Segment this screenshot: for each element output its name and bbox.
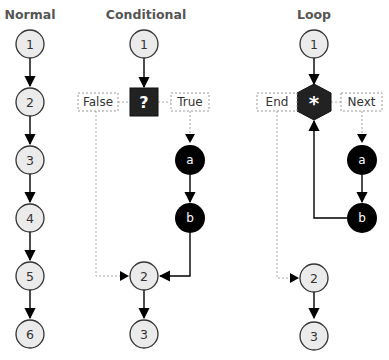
svg-text:a: a xyxy=(186,153,193,167)
loop-hexagon: * xyxy=(297,84,331,120)
svg-text:4: 4 xyxy=(26,211,34,226)
svg-text:1: 1 xyxy=(140,37,148,52)
svg-text:5: 5 xyxy=(26,269,34,284)
flow-diagram: Normal Conditional Loop 1 2 3 4 5 6 1 ? xyxy=(0,0,389,360)
svg-text:b: b xyxy=(186,211,194,225)
conditional-node-b: b xyxy=(175,203,205,233)
svg-text:True: True xyxy=(176,95,203,109)
question-icon: ? xyxy=(139,93,148,112)
normal-node-1: 1 xyxy=(16,30,44,58)
svg-text:False: False xyxy=(83,95,113,109)
svg-text:b: b xyxy=(358,211,366,225)
normal-node-4: 4 xyxy=(16,204,44,232)
asterisk-icon: * xyxy=(309,91,320,115)
svg-text:2: 2 xyxy=(26,95,34,110)
svg-text:6: 6 xyxy=(26,327,34,342)
svg-text:3: 3 xyxy=(310,329,318,344)
normal-node-3: 3 xyxy=(16,146,44,174)
svg-text:2: 2 xyxy=(140,269,148,284)
svg-text:1: 1 xyxy=(26,37,34,52)
svg-text:2: 2 xyxy=(310,271,318,286)
loop-node-2: 2 xyxy=(300,264,328,292)
svg-text:3: 3 xyxy=(26,153,34,168)
conditional-node-3: 3 xyxy=(130,320,158,348)
true-label: True xyxy=(171,93,209,111)
false-label: False xyxy=(78,93,118,111)
svg-text:3: 3 xyxy=(140,327,148,342)
loop-node-b: b xyxy=(347,203,377,233)
conditional-node-a: a xyxy=(175,145,205,175)
loop-node-1: 1 xyxy=(300,30,328,58)
normal-node-2: 2 xyxy=(16,88,44,116)
title-normal: Normal xyxy=(5,7,56,22)
loop-node-3: 3 xyxy=(300,322,328,350)
svg-text:End: End xyxy=(266,95,289,109)
title-loop: Loop xyxy=(297,7,331,22)
svg-text:a: a xyxy=(358,153,365,167)
end-label: End xyxy=(257,93,297,111)
normal-node-6: 6 xyxy=(16,320,44,348)
loop-node-a: a xyxy=(347,145,377,175)
conditional-node-1: 1 xyxy=(130,30,158,58)
conditional-node-2: 2 xyxy=(130,262,158,290)
next-label: Next xyxy=(341,93,382,111)
decision-box: ? xyxy=(130,88,158,116)
normal-node-5: 5 xyxy=(16,262,44,290)
svg-text:1: 1 xyxy=(310,37,318,52)
svg-text:Next: Next xyxy=(348,95,376,109)
title-conditional: Conditional xyxy=(106,7,186,22)
